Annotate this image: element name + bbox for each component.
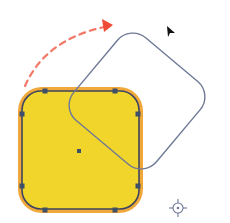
crosshair-icon <box>169 199 187 217</box>
center-point[interactable] <box>77 149 81 153</box>
resize-handle[interactable] <box>113 208 118 213</box>
resize-handle[interactable] <box>43 208 48 213</box>
cursor-arrow-icon <box>167 26 175 37</box>
resize-handle[interactable] <box>136 112 141 117</box>
resize-handle[interactable] <box>113 89 118 94</box>
resize-handle[interactable] <box>136 184 141 189</box>
resize-handle[interactable] <box>20 184 25 189</box>
rotation-arrow-path <box>25 27 104 86</box>
rotate-illustration <box>0 0 230 223</box>
resize-handle[interactable] <box>43 89 48 94</box>
rotation-arrowhead-icon <box>102 19 113 32</box>
resize-handle[interactable] <box>20 112 25 117</box>
